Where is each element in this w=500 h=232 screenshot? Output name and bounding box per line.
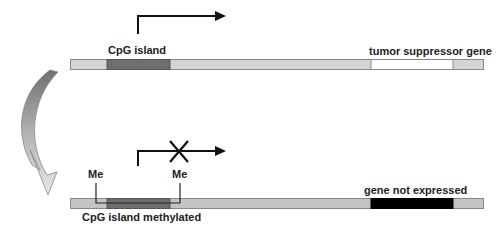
gene-not-expressed-label: gene not expressed (364, 184, 467, 196)
diagram-graphics (0, 0, 500, 232)
methyl-label-right: Me (172, 168, 187, 180)
cpg-island-region (107, 60, 170, 70)
silenced-gene-region (371, 199, 453, 209)
tumor-suppressor-gene-label: tumor suppressor gene (369, 45, 492, 57)
methyl-label-left: Me (88, 168, 103, 180)
dna-bar-top (71, 60, 484, 70)
transcription-arrow-blocked (138, 141, 226, 166)
transcription-arrow-top (138, 11, 226, 34)
curved-transition-arrow-icon (22, 70, 58, 195)
cpg-island-label: CpG island (108, 44, 166, 56)
tumor-suppressor-gene-region (371, 60, 453, 70)
cpg-island-methylated-label: CpG island methylated (82, 211, 201, 223)
